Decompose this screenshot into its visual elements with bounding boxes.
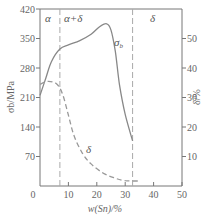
- left-axis-ticks: 701402102803504200: [20, 4, 40, 201]
- y-tick-label: 210: [20, 92, 35, 103]
- x-axis-ticks: 1020304050: [63, 182, 187, 200]
- x-axis-title: w(Sn)/%: [88, 203, 122, 215]
- y-axis-title: σb/MPa: [5, 80, 16, 113]
- x-tick-label: 0: [31, 189, 36, 200]
- y-right-tick-label: 50: [187, 33, 197, 44]
- x-tick-label: 50: [177, 189, 187, 200]
- strength-elongation-chart: 701402102803504200 1020304050 1020304050…: [0, 0, 208, 219]
- y-right-tick-label: 10: [187, 151, 197, 162]
- x-tick-label: 30: [120, 189, 130, 200]
- y-tick-label: 420: [20, 4, 35, 15]
- plot-frame: [40, 9, 182, 186]
- y-axis-right-title: δ/%: [191, 89, 202, 105]
- x-tick-label: 40: [149, 189, 159, 200]
- delta-annotation: δ: [86, 143, 92, 155]
- sigma-b-annotation: σb: [114, 36, 123, 50]
- y-tick-label: 350: [20, 33, 35, 44]
- y-tick-label: 70: [25, 151, 35, 162]
- y-tick-label: 140: [20, 122, 35, 133]
- region-label-alpha-delta: α+δ: [64, 12, 83, 24]
- x-tick-label: 10: [63, 189, 73, 200]
- region-label-delta: δ: [150, 12, 156, 24]
- delta-curve: [40, 81, 139, 181]
- y-right-tick-label: 20: [187, 122, 197, 133]
- y-right-tick-label: 40: [187, 63, 197, 74]
- x-tick-label: 20: [92, 189, 102, 200]
- y-tick-label: 280: [20, 63, 35, 74]
- region-label-alpha: α: [45, 12, 51, 24]
